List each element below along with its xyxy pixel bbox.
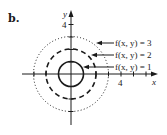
level-label-2: f(x, y) = 2 <box>115 50 152 60</box>
y-tick-label: 4 <box>62 20 67 30</box>
arrow-left-icon <box>83 65 89 69</box>
y-axis-label: y <box>62 9 67 19</box>
arrow-left-icon <box>91 53 97 57</box>
x-axis-label: x <box>151 77 156 87</box>
level-label-3: f(x, y) = 3 <box>115 38 152 48</box>
y-axis-arrow-icon <box>69 10 74 17</box>
annotation-level-2: f(x, y) = 2 <box>91 50 152 60</box>
annotation-level-3: f(x, y) = 3 <box>96 38 152 48</box>
y-axis: 4 y <box>62 9 74 125</box>
x-axis: 4 x <box>22 72 158 89</box>
arrow-left-icon <box>96 41 102 45</box>
x-axis-arrow-icon <box>151 72 158 77</box>
contour-diagram: b. 4 x 4 y f(x, y) = 3 <box>0 0 167 135</box>
level-label-1: f(x, y) = 1 <box>115 62 152 72</box>
panel-label: b. <box>8 12 20 25</box>
x-tick-label: 4 <box>118 78 123 88</box>
